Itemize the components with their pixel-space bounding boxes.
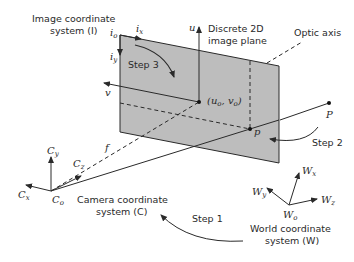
discrete-plane-label-2: image plane [208,35,267,46]
cy-label: Cy [47,145,60,158]
wy-label: Wy [252,186,267,199]
camera-projection-diagram: Image coordinate system (I) Discrete 2D … [0,0,354,262]
world-coord-label-1: World coordinate [250,223,331,234]
P-label: P [325,109,333,120]
cz-label: Cz [73,158,85,171]
io-label: io [110,27,117,40]
v-label: v [105,87,111,98]
f-label: f [104,142,111,153]
wx-label: Wx [302,165,316,178]
image-coord-label-1: Image coordinate [32,13,116,24]
step3-label: Step 3 [128,59,159,70]
image-point-p [248,127,252,131]
cx-label: Cx [18,189,30,202]
cx-axis [26,185,51,191]
u-label: u [189,22,195,33]
principal-point [197,100,201,104]
optic-axis-ext [267,42,302,63]
wx-axis [289,173,299,205]
step2-label: Step 2 [312,137,343,148]
discrete-plane-label-1: Discrete 2D [208,23,264,34]
ix-label: ix [136,23,143,36]
iy-label: iy [110,51,118,64]
wy-axis [267,188,289,205]
ray-plane-to-P [280,103,329,120]
image-coord-label-2: system (I) [50,25,98,36]
co-label: Co [52,194,64,207]
camera-coord-label-1: Camera coordinate [77,194,168,205]
camera-coord-label-2: system (C) [96,206,147,217]
world-coord-label-2: system (W) [265,235,319,246]
optic-axis-label: Optic axis [294,27,341,38]
world-point-P [327,101,331,105]
wz-axis [289,199,317,205]
step1-label: Step 1 [192,213,223,224]
wz-label: Wz [321,194,335,207]
wo-label: Wo [283,209,298,222]
p-label: p [254,126,261,137]
